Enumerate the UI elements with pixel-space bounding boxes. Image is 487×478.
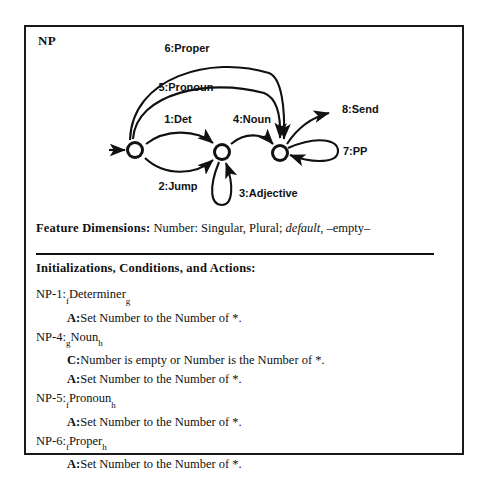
rule-block: NP-6:fProperh A:Set Number to the Number… — [36, 432, 451, 475]
rule-line-tag: A: — [67, 372, 80, 386]
rule-sub-to: h — [98, 338, 103, 348]
rule-id: NP-6: — [36, 434, 66, 448]
rule-line-tag: A: — [67, 311, 80, 325]
rule-line: A:Set Number to the Number of *. — [36, 455, 451, 474]
rule-sub-to: h — [111, 400, 116, 410]
rule-sub-to: h — [102, 442, 107, 452]
rule-id: NP-5: — [36, 391, 66, 405]
edge-2-jump: 2:Jump — [145, 158, 213, 192]
rule-sub-from: f — [66, 400, 69, 410]
rule-line-text: Set Number to the Number of *. — [80, 415, 241, 429]
np-network-frame: NP 6:Proper 5:Pronoun — [24, 25, 464, 455]
rule-head: NP-1:fDeterminerg — [36, 285, 451, 309]
rule-line: A:Set Number to the Number of *. — [36, 309, 451, 328]
rule-block: NP-5:fPronounh A:Set Number to the Numbe… — [36, 389, 451, 432]
state-node-f[interactable]: f — [126, 141, 144, 159]
rule-head: NP-4:gNounh — [36, 328, 451, 352]
edge-8-send: 8:Send — [287, 103, 379, 144]
rule-sub-from: f — [66, 296, 69, 306]
rule-id: NP-4: — [36, 330, 66, 344]
edge-label-4: 4:Noun — [233, 113, 271, 125]
edge-label-1: 1:Det — [164, 113, 192, 125]
edge-1-det: 1:Det — [146, 113, 213, 144]
edge-label-2: 2:Jump — [158, 180, 197, 192]
rule-head: NP-5:fPronounh — [36, 389, 451, 413]
rules-list: NP-1:fDeterminerg A:Set Number to the Nu… — [36, 285, 451, 474]
edge-3-adjective: 3:Adjective — [212, 162, 298, 205]
rule-sub-from: g — [66, 338, 71, 348]
edge-label-8: 8:Send — [342, 103, 379, 115]
rule-line-text: Number is empty or Number is the Number … — [80, 353, 324, 367]
rule-line-tag: A: — [67, 415, 80, 429]
rule-line: A:Set Number to the Number of *. — [36, 413, 451, 432]
rule-arc-name: Noun — [70, 330, 98, 344]
state-node-h[interactable]: h — [271, 144, 289, 162]
rule-line: A:Set Number to the Number of *. — [36, 370, 451, 389]
state-machine-svg: 6:Proper 5:Pronoun 8:Send 1:Det 2:Jump — [26, 27, 462, 212]
rule-line-text: Set Number to the Number of *. — [80, 372, 241, 386]
state-node-g[interactable]: g — [213, 143, 231, 161]
feature-dimensions-value: Number: Singular, Plural; — [150, 221, 285, 235]
edge-7-pp: 7:PP — [288, 140, 367, 161]
state-label-g: g — [219, 146, 225, 157]
rule-head: NP-6:fProperh — [36, 432, 451, 456]
feature-dimensions-tail: , –empty– — [320, 221, 370, 235]
rules-heading: Initializations, Conditions, and Actions… — [36, 261, 256, 276]
rule-id: NP-1: — [36, 287, 66, 301]
rule-block: NP-1:fDeterminerg A:Set Number to the Nu… — [36, 285, 451, 328]
edge-4-noun: 4:Noun — [231, 113, 273, 144]
rule-sub-from: f — [66, 442, 69, 452]
feature-dimensions-label: Feature Dimensions: — [36, 221, 150, 235]
state-label-h: h — [277, 147, 283, 158]
rule-line-tag: C: — [67, 353, 80, 367]
automaton-diagram: NP 6:Proper 5:Pronoun — [26, 27, 462, 212]
rule-line-text: Set Number to the Number of *. — [80, 457, 241, 471]
rule-line-text: Set Number to the Number of *. — [80, 311, 241, 325]
edge-label-3: 3:Adjective — [239, 187, 298, 199]
edge-label-7: 7:PP — [343, 145, 367, 157]
rule-block: NP-4:gNounh C:Number is empty or Number … — [36, 328, 451, 390]
rule-sub-to: g — [126, 296, 131, 306]
edge-label-6: 6:Proper — [164, 42, 210, 54]
rule-arc-name: Pronoun — [69, 391, 111, 405]
feature-dimensions-default: default — [286, 221, 321, 235]
rule-arc-name: Determiner — [69, 287, 126, 301]
feature-dimensions-row: Feature Dimensions: Number: Singular, Pl… — [36, 220, 456, 236]
rule-line-tag: A: — [67, 457, 80, 471]
rule-arc-name: Proper — [69, 434, 102, 448]
edge-label-5: 5:Pronoun — [159, 81, 214, 93]
rule-line: C:Number is empty or Number is the Numbe… — [36, 351, 451, 370]
section-divider — [36, 253, 434, 255]
